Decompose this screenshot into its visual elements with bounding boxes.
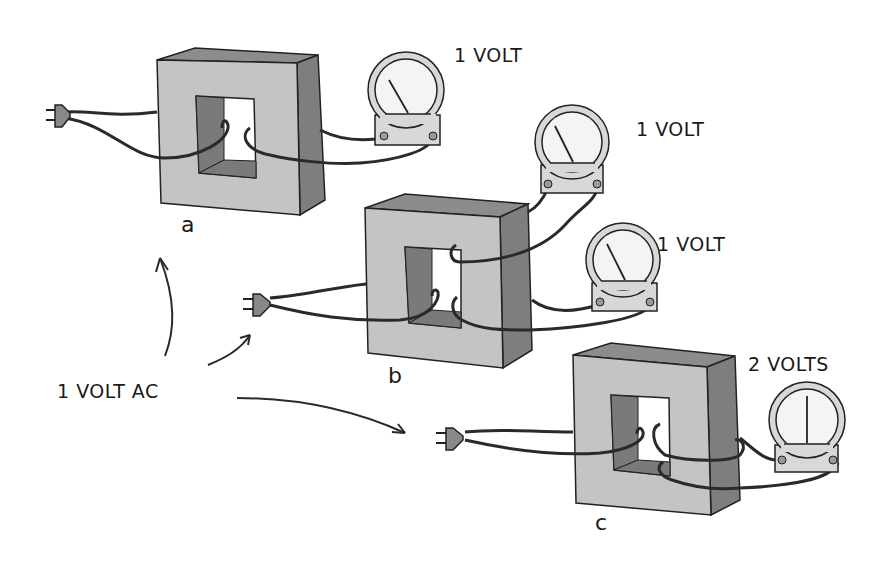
plug-icon [46,105,70,127]
meter-c-reading: 2 VOLTS [748,353,829,375]
transformer-c-label: c [595,510,607,535]
voltmeter-b1 [535,105,609,193]
meter-b1-reading: 1 VOLT [636,118,704,140]
source-label: 1 VOLT AC [57,380,159,402]
voltmeter-b2 [586,223,660,311]
meter-b2-reading: 1 VOLT [657,233,725,255]
transformer-a-label: a [181,212,194,237]
plug-icon [436,428,463,450]
voltmeter-c [769,382,845,472]
voltmeter-a [368,52,444,145]
meter-a-reading: 1 VOLT [454,44,522,66]
transformer-b [243,188,650,368]
plug-icon [243,294,270,316]
transformer-b-label: b [388,363,402,388]
transformer-diagram [0,0,895,568]
